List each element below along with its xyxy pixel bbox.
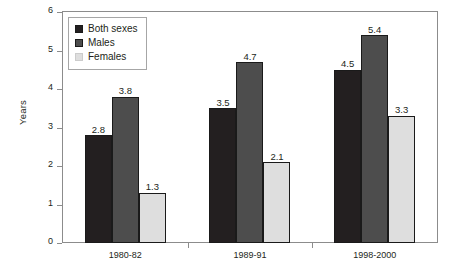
y-axis-tick-label: 5: [48, 44, 53, 54]
legend-swatch-females-icon: [75, 53, 83, 61]
x-axis-tick-mark: [312, 243, 313, 248]
chart-legend: Both sexesMalesFemales: [68, 17, 147, 70]
bar-both[interactable]: 2.8: [85, 135, 112, 243]
bar-value-label: 4.7: [243, 52, 256, 62]
y-axis-tick-label: 6: [48, 5, 53, 15]
legend-item-label: Both sexes: [88, 24, 137, 34]
y-axis-tick-label: 2: [48, 159, 53, 169]
bar-males[interactable]: 5.4: [361, 35, 388, 243]
legend-swatch-both-icon: [75, 25, 83, 33]
x-axis-label: 1989-91: [233, 250, 266, 260]
bar-both[interactable]: 3.5: [209, 108, 236, 243]
bar-group: 3.54.72.1: [188, 12, 313, 243]
y-axis-tick-label: 3: [48, 121, 53, 131]
bar-males[interactable]: 4.7: [236, 62, 263, 243]
bar-chart: Years 0123456 2.83.81.33.54.72.14.55.43.…: [0, 0, 452, 274]
legend-item-label: Males: [88, 38, 115, 48]
x-axis-label: 1998-2000: [353, 250, 396, 260]
y-axis-tick-label: 0: [48, 236, 53, 246]
y-axis-tick-mark: [57, 243, 62, 244]
legend-item-both[interactable]: Both sexes: [75, 22, 137, 36]
bar-females[interactable]: 1.3: [139, 193, 166, 243]
bar-group: 4.55.43.3: [312, 12, 437, 243]
bar-value-label: 2.1: [270, 152, 283, 162]
legend-item-females[interactable]: Females: [75, 50, 137, 64]
bar-value-label: 5.4: [368, 25, 381, 35]
x-axis-label: 1980-82: [109, 250, 142, 260]
y-axis-title: Years: [17, 83, 28, 143]
bar-males[interactable]: 3.8: [112, 97, 139, 243]
bar-females[interactable]: 3.3: [388, 116, 415, 243]
y-axis-tick-label: 4: [48, 82, 53, 92]
bar-value-label: 3.5: [216, 98, 229, 108]
legend-item-males[interactable]: Males: [75, 36, 137, 50]
y-axis-tick-label: 1: [48, 198, 53, 208]
legend-swatch-males-icon: [75, 39, 83, 47]
bar-value-label: 4.5: [341, 59, 354, 69]
legend-item-label: Females: [88, 52, 126, 62]
bar-both[interactable]: 4.5: [334, 70, 361, 243]
x-axis-tick-mark: [188, 243, 189, 248]
bar-value-label: 2.8: [92, 125, 105, 135]
bar-value-label: 1.3: [146, 182, 159, 192]
bar-value-label: 3.3: [395, 105, 408, 115]
bar-females[interactable]: 2.1: [263, 162, 290, 243]
bar-value-label: 3.8: [119, 86, 132, 96]
